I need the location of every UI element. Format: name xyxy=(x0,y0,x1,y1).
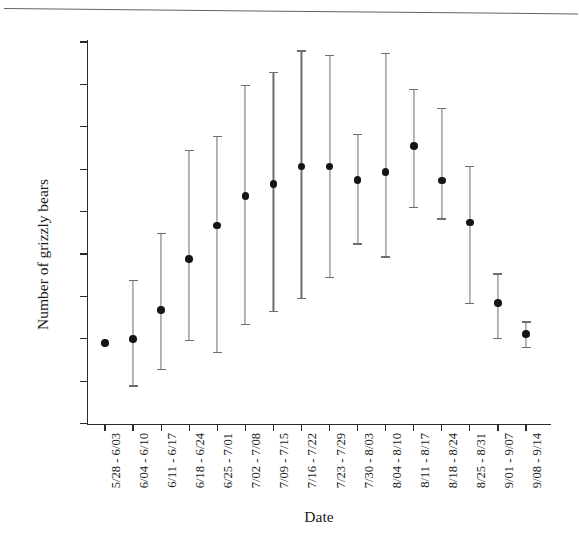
error-bar-lower-cap xyxy=(213,352,222,353)
x-axis-tick-label: 7/30 - 8/03 xyxy=(363,433,376,488)
error-bar-upper-cap xyxy=(297,50,306,51)
x-axis-tick xyxy=(385,424,386,431)
error-bar-upper-cap xyxy=(493,273,502,274)
error-bar-upper-cap xyxy=(269,72,278,73)
data-point-marker xyxy=(494,299,502,307)
x-axis-tick-label: 9/01 - 9/07 xyxy=(503,433,516,488)
grizzly-bear-abundance-chart: 0102030405060708090 5/28 - 6/036/04 - 6/… xyxy=(0,0,579,551)
x-axis-tick xyxy=(161,424,162,431)
x-axis-tick xyxy=(189,424,190,431)
x-axis-tick xyxy=(469,424,470,431)
data-point-marker xyxy=(129,335,137,343)
error-bar-lower-cap xyxy=(493,338,502,339)
error-bar-upper-cap xyxy=(409,89,418,90)
x-axis-tick-label: 7/23 - 7/29 xyxy=(335,433,348,488)
error-bar-upper-cap xyxy=(465,166,474,167)
error-bar-line xyxy=(217,136,218,352)
y-axis-title: Number of grizzly bears xyxy=(34,90,52,330)
x-axis-tick-label: 7/16 - 7/22 xyxy=(306,433,319,488)
x-axis-tick-label: 8/25 - 8/31 xyxy=(475,433,488,488)
y-axis-tick xyxy=(80,423,88,424)
error-bar-upper-cap xyxy=(213,136,222,137)
error-bar-line xyxy=(301,50,302,298)
y-axis-tick xyxy=(80,296,88,297)
x-axis-tick xyxy=(301,424,302,431)
x-axis-tick xyxy=(525,424,526,431)
x-axis-tick-label: 6/04 - 6/10 xyxy=(138,433,151,488)
x-axis-tick xyxy=(497,424,498,431)
error-bar-line xyxy=(245,85,246,324)
error-bar-lower-cap xyxy=(465,303,474,304)
error-bar-lower-cap xyxy=(353,243,362,244)
data-point-marker xyxy=(298,163,306,171)
data-point-marker xyxy=(185,255,193,263)
error-bar-upper-cap xyxy=(353,134,362,135)
error-bar-line xyxy=(469,166,470,303)
x-axis-tick xyxy=(217,424,218,431)
data-point-marker xyxy=(101,339,109,347)
x-axis-tick xyxy=(104,424,105,431)
y-axis-tick xyxy=(80,84,88,85)
x-axis-tick-label: 7/09 - 7/15 xyxy=(278,433,291,488)
data-point-marker xyxy=(242,192,250,200)
error-bar-lower-cap xyxy=(241,324,250,325)
error-bar-lower-cap xyxy=(129,385,138,386)
y-axis-tick xyxy=(80,338,88,339)
x-axis-tick-label: 8/04 - 8/10 xyxy=(391,433,404,488)
x-axis-tick-label: 6/11 - 6/17 xyxy=(166,433,179,488)
data-point-marker xyxy=(410,142,418,150)
y-axis-tick xyxy=(80,381,88,382)
x-axis-tick-label: 8/18 - 8/24 xyxy=(447,433,460,488)
error-bar-lower-cap xyxy=(157,369,166,370)
data-point-marker xyxy=(213,222,221,230)
x-axis-tick xyxy=(329,424,330,431)
error-bar-line xyxy=(441,108,442,219)
y-axis-tick xyxy=(80,41,88,42)
x-axis-tick-label: 6/25 - 7/01 xyxy=(222,433,235,488)
y-axis-tick xyxy=(80,126,88,127)
x-axis-tick xyxy=(441,424,442,431)
data-point-marker xyxy=(438,177,446,185)
x-axis-tick-label: 7/02 - 7/08 xyxy=(250,433,263,488)
data-point-marker xyxy=(354,176,362,184)
error-bar-upper-cap xyxy=(325,55,334,56)
x-axis-tick xyxy=(132,424,133,431)
y-axis-tick xyxy=(80,211,88,212)
x-axis-tick xyxy=(357,424,358,431)
error-bar-lower-cap xyxy=(325,277,334,278)
y-axis-line xyxy=(87,40,88,425)
error-bar-line xyxy=(189,150,190,340)
data-point-marker xyxy=(270,180,278,188)
x-axis-tick xyxy=(245,424,246,431)
x-axis-title: Date xyxy=(87,508,551,526)
data-point-marker xyxy=(382,168,390,176)
error-bar-lower-cap xyxy=(409,207,418,208)
x-axis-tick-label: 6/18 - 6/24 xyxy=(194,433,207,488)
error-bar-upper-cap xyxy=(381,53,390,54)
error-bar-upper-cap xyxy=(129,280,138,281)
error-bar-upper-cap xyxy=(241,85,250,86)
x-axis-tick-label: 9/08 - 9/14 xyxy=(531,433,544,488)
error-bar-upper-cap xyxy=(522,321,531,322)
x-axis-tick xyxy=(273,424,274,431)
data-point-marker xyxy=(466,219,474,227)
y-axis-tick xyxy=(80,253,88,254)
y-axis-tick xyxy=(80,169,88,170)
error-bar-upper-cap xyxy=(437,108,446,109)
error-bar-line xyxy=(385,53,386,257)
data-point-marker xyxy=(326,163,334,171)
error-bar-lower-cap xyxy=(269,311,278,312)
error-bar-lower-cap xyxy=(381,256,390,257)
x-axis-line xyxy=(87,424,551,425)
x-axis-tick-label: 5/28 - 6/03 xyxy=(110,433,123,488)
error-bar-upper-cap xyxy=(157,233,166,234)
data-point-marker xyxy=(157,306,165,314)
data-point-marker xyxy=(522,330,530,338)
error-bar-lower-cap xyxy=(522,347,531,348)
error-bar-line xyxy=(133,280,134,386)
error-bar-upper-cap xyxy=(185,150,194,151)
x-axis-tick-label: 8/11 - 8/17 xyxy=(419,433,432,488)
error-bar-lower-cap xyxy=(297,298,306,299)
error-bar-lower-cap xyxy=(437,218,446,219)
error-bar-lower-cap xyxy=(185,340,194,341)
